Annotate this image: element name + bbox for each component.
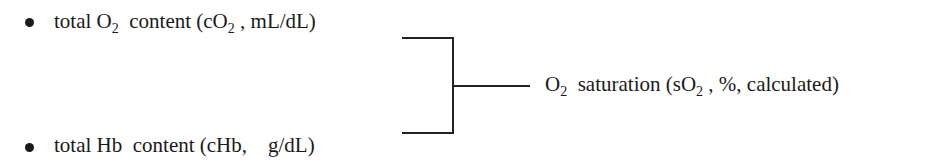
label-part: saturation (sO	[567, 72, 696, 96]
label-part: O	[545, 72, 560, 96]
output-o2-saturation: O2 saturation (sO2 , %, calculated)	[545, 74, 839, 95]
label-part: , %, calculated)	[703, 72, 839, 96]
